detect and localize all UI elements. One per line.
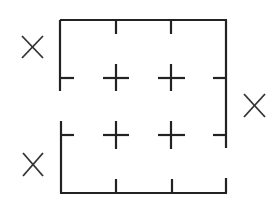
x-mark-right-middle bbox=[244, 94, 265, 117]
grid-diagram bbox=[0, 0, 279, 210]
cross-icon bbox=[158, 121, 185, 149]
x-mark-left-lower bbox=[23, 153, 43, 176]
cross-icon bbox=[103, 64, 129, 91]
bottom-ticks bbox=[116, 179, 172, 193]
x-mark-left-upper bbox=[22, 36, 43, 58]
right-ticks bbox=[213, 78, 226, 135]
frame bbox=[60, 20, 227, 193]
top-ticks bbox=[116, 20, 171, 34]
diagram-canvas bbox=[0, 0, 279, 210]
interior-crosses bbox=[103, 64, 185, 149]
cross-icon bbox=[158, 64, 185, 91]
cross-icon bbox=[103, 121, 129, 149]
